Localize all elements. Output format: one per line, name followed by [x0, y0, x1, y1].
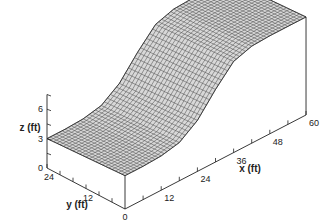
x-tick-label: 12 — [164, 193, 174, 203]
x-tick-label: 48 — [273, 137, 283, 147]
x-tick-label: 60 — [309, 118, 319, 128]
x-tick-label: 24 — [200, 174, 210, 184]
z-tick-label: 3 — [38, 134, 43, 144]
y-axis-label: y (ft) — [66, 199, 88, 210]
wireframe-surface — [47, 0, 306, 209]
y-tick-label: 24 — [44, 172, 54, 182]
x-tick-label: 0 — [122, 212, 127, 222]
z-tick-label: 0 — [38, 163, 43, 173]
z-tick-label: 6 — [38, 104, 43, 114]
z-axis-label: z (ft) — [19, 122, 40, 133]
x-axis-label: x (ft) — [239, 163, 261, 174]
surface-plot: 012243648601224036x (ft)y (ft)z (ft) — [0, 0, 330, 224]
